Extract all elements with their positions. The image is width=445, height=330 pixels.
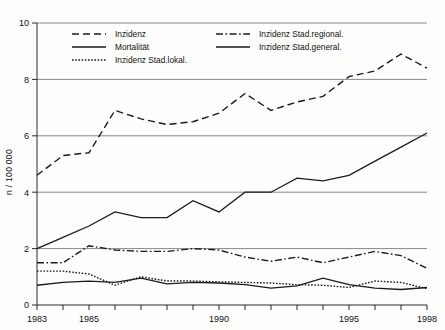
line-chart: 0246810n / 100 00019831985199019951998In… — [0, 0, 445, 330]
x-tick-label-1995: 1995 — [339, 314, 359, 324]
chart-container: 0246810n / 100 00019831985199019951998In… — [0, 0, 445, 330]
x-tick-label-1998: 1998 — [417, 314, 437, 324]
y-tick-label-0: 0 — [24, 300, 29, 310]
legend-label-inzidenz-stad-regional: Inzidenz Stad.regional. — [259, 29, 343, 39]
legend-label-mortalit-t: Mortalität — [115, 42, 150, 52]
y-axis-title: n / 100 000 — [4, 149, 14, 195]
y-tick-label-2: 2 — [24, 244, 29, 254]
y-tick-label-4: 4 — [24, 188, 29, 198]
series-line-inzidenz-stad-regional — [37, 246, 427, 269]
x-tick-label-1985: 1985 — [79, 314, 99, 324]
series-line-inzidenz-stad-lokal — [37, 271, 427, 288]
legend-label-inzidenz: Inzidenz — [115, 29, 146, 39]
y-tick-label-8: 8 — [24, 75, 29, 85]
series-line-inzidenz-stad-general — [37, 133, 427, 249]
legend-label-inzidenz-stad-general: Inzidenz Stad.general. — [259, 42, 342, 52]
y-tick-label-6: 6 — [24, 131, 29, 141]
x-tick-label-1990: 1990 — [209, 314, 229, 324]
y-tick-label-10: 10 — [19, 18, 29, 28]
legend-label-inzidenz-stad-lokal: Inzidenz Stad.lokal. — [115, 55, 187, 65]
series-line-mortalit-t — [37, 278, 427, 289]
x-tick-label-1983: 1983 — [27, 314, 47, 324]
series-line-inzidenz — [37, 54, 427, 175]
